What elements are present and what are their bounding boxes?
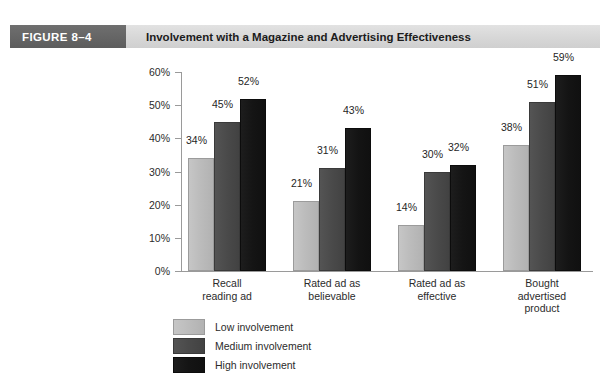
bar[interactable] [345, 128, 371, 271]
bar[interactable] [240, 99, 266, 271]
y-axis-tick-label: 60% [136, 66, 170, 78]
y-axis-tick-mark [175, 205, 181, 206]
legend-item[interactable]: Medium involvement [173, 336, 311, 355]
bar-value-label: 45% [212, 98, 233, 110]
bar-value-label: 59% [553, 51, 574, 63]
legend-item[interactable]: Low involvement [173, 317, 311, 336]
bar[interactable] [398, 225, 424, 271]
y-axis-tick-mark [175, 238, 181, 239]
y-axis-tick-label: 40% [136, 132, 170, 144]
bar[interactable] [450, 165, 476, 271]
bar[interactable] [529, 102, 555, 271]
bar-group-bars: 34%45%52% [188, 72, 266, 271]
x-axis-line [181, 271, 593, 272]
bar-group: 14%30%32% [398, 72, 476, 271]
bar-value-label: 52% [238, 75, 259, 87]
y-axis-tick-label: 20% [136, 199, 170, 211]
x-axis-category-label-line: Rated ad as [272, 277, 392, 290]
x-axis-category-label-line: reading ad [167, 290, 287, 303]
chart-legend: Low involvementMedium involvementHigh in… [173, 317, 311, 374]
x-axis-category-label: Recallreading ad [167, 277, 287, 302]
y-axis-tick-mark [175, 138, 181, 139]
y-axis-tick-mark [175, 172, 181, 173]
legend-color-swatch [173, 319, 205, 335]
legend-color-swatch [173, 338, 205, 354]
bar-value-label: 34% [186, 134, 207, 146]
legend-item-label: Medium involvement [215, 340, 311, 352]
bar[interactable] [555, 75, 581, 271]
x-axis-category-label-line: believable [272, 290, 392, 303]
y-axis-tick-label: 0% [136, 265, 170, 277]
x-axis-category-label-line: advertised [482, 290, 602, 303]
bar[interactable] [293, 201, 319, 271]
y-axis-tick-mark [175, 72, 181, 73]
bar-group-bars: 38%51%59% [503, 72, 581, 271]
y-axis-tick-label: 50% [136, 99, 170, 111]
bar-value-label: 31% [317, 144, 338, 156]
bar-value-label: 51% [527, 78, 548, 90]
x-axis-category-label-line: Rated ad as [377, 277, 497, 290]
bar[interactable] [188, 158, 214, 271]
y-axis-tick-label: 30% [136, 166, 170, 178]
bar[interactable] [214, 122, 240, 271]
x-axis-category-label: Rated ad asbelievable [272, 277, 392, 302]
bar[interactable] [503, 145, 529, 271]
x-axis-category-label-line: Recall [167, 277, 287, 290]
legend-color-swatch [173, 357, 205, 373]
bar-value-label: 32% [448, 141, 469, 153]
bar-group: 38%51%59% [503, 72, 581, 271]
x-axis-category-label-line: effective [377, 290, 497, 303]
bar-group: 21%31%43% [293, 72, 371, 271]
x-axis-category-label: Rated ad aseffective [377, 277, 497, 302]
legend-item-label: Low involvement [215, 321, 293, 333]
y-axis-tick-mark [175, 271, 181, 272]
y-axis-line [181, 72, 182, 271]
y-axis-tick-mark [175, 105, 181, 106]
x-axis-category-label-line: product [482, 302, 602, 315]
bar-value-label: 43% [343, 104, 364, 116]
y-axis-tick-label: 10% [136, 232, 170, 244]
bar[interactable] [424, 172, 450, 272]
bar-group-bars: 14%30%32% [398, 72, 476, 271]
bar-value-label: 38% [501, 121, 522, 133]
bar-group: 34%45%52% [188, 72, 266, 271]
bar-value-label: 14% [396, 201, 417, 213]
bar[interactable] [319, 168, 345, 271]
bar-value-label: 30% [422, 148, 443, 160]
x-axis-category-label: Boughtadvertisedproduct [482, 277, 602, 315]
legend-item-label: High involvement [215, 359, 296, 371]
legend-item[interactable]: High involvement [173, 355, 311, 374]
bar-value-label: 21% [291, 177, 312, 189]
x-axis-category-label-line: Bought [482, 277, 602, 290]
bar-group-bars: 21%31%43% [293, 72, 371, 271]
